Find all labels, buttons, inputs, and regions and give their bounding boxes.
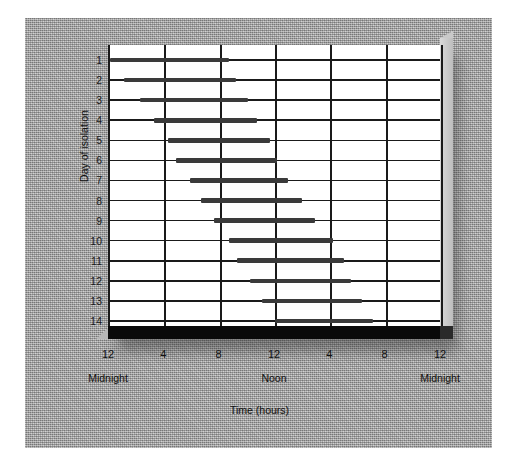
plot-area bbox=[108, 45, 440, 326]
x-gridline bbox=[164, 45, 166, 326]
x-gridline bbox=[275, 45, 277, 326]
y-tick-label: 1 bbox=[76, 55, 102, 65]
sleep-interval-bar bbox=[190, 178, 288, 183]
y-tick-label: 9 bbox=[76, 216, 102, 226]
x-sub-label: Midnight bbox=[88, 372, 128, 384]
x-tick-label: 12 bbox=[434, 348, 446, 360]
y-tick-label: 3 bbox=[76, 95, 102, 105]
sleep-interval-bar bbox=[201, 198, 302, 203]
x-axis-title: Time (hours) bbox=[0, 404, 519, 416]
x-tick-label: 12 bbox=[268, 348, 280, 360]
y-tick-label: 2 bbox=[76, 75, 102, 85]
x-gridline bbox=[330, 45, 332, 326]
x-sub-label: Midnight bbox=[420, 372, 460, 384]
x-axis-tick-labels: 1248124812 bbox=[108, 348, 440, 364]
x-gridline bbox=[441, 45, 443, 326]
y-tick-label: 12 bbox=[76, 276, 102, 286]
y-tick-label: 10 bbox=[76, 236, 102, 246]
y-tick-label: 13 bbox=[76, 296, 102, 306]
x-tick-label: 4 bbox=[160, 348, 166, 360]
sleep-interval-bar bbox=[250, 279, 351, 284]
y-axis-title: Day of isolation bbox=[78, 110, 90, 182]
x-tick-label: 8 bbox=[382, 348, 388, 360]
sleep-interval-bar bbox=[110, 58, 229, 63]
x-gridline bbox=[220, 45, 222, 326]
sleep-interval-bar bbox=[275, 319, 373, 324]
x-tick-label: 12 bbox=[102, 348, 114, 360]
x-axis-sub-labels: MidnightNoonMidnight bbox=[108, 372, 440, 388]
x-sub-label: Noon bbox=[261, 372, 286, 384]
sleep-interval-bar bbox=[229, 238, 333, 243]
y-tick-label: 14 bbox=[76, 316, 102, 326]
sleep-interval-bar bbox=[176, 158, 277, 163]
sleep-interval-bar bbox=[262, 299, 362, 304]
sleep-interval-bar bbox=[154, 118, 256, 123]
y-tick-label: 8 bbox=[76, 196, 102, 206]
plot-3d-base-right bbox=[440, 326, 453, 339]
chart-figure: 1234567891011121314 Day of isolation 124… bbox=[0, 0, 519, 469]
sleep-interval-bar bbox=[140, 98, 248, 103]
y-tick-label: 11 bbox=[76, 256, 102, 266]
day-baseline bbox=[110, 140, 440, 142]
sleep-interval-bar bbox=[124, 78, 236, 83]
plot-3d-base-face bbox=[108, 326, 453, 339]
sleep-interval-bar bbox=[214, 218, 315, 223]
sleep-interval-bar bbox=[168, 138, 270, 143]
x-tick-label: 4 bbox=[326, 348, 332, 360]
x-gridline bbox=[386, 45, 388, 326]
y-axis-tick-labels: 1234567891011121314 bbox=[74, 45, 102, 326]
sleep-interval-bar bbox=[237, 258, 344, 263]
x-tick-label: 8 bbox=[216, 348, 222, 360]
